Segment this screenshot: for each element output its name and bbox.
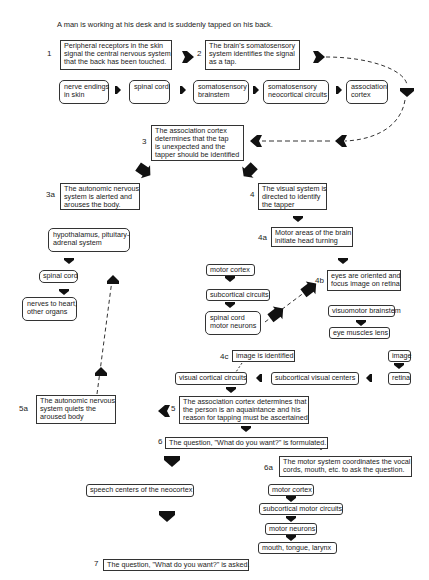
node-line: other organs [27, 308, 72, 316]
node-line: visuomotor brainstem [332, 307, 391, 315]
step-4c-box: image is identified [232, 350, 295, 362]
step-3a-number: 3a [46, 191, 55, 200]
step-6a-line: cords, mouth, etc. to ask the question. [283, 466, 408, 474]
node-line: motor neurons [210, 322, 256, 330]
node-line: adrenal system [53, 239, 125, 247]
node-line: speech centers of the neocortex [90, 486, 190, 494]
step-5a-box: The autonomic nervous system quiets the … [36, 395, 116, 424]
step-4c-number: 4c [220, 353, 228, 362]
node-line: motor neurons [269, 525, 313, 533]
step-7-line: The question, "What do you want?" is ask… [107, 561, 245, 569]
vocal-node-mouth-tongue-larynx: mouth, tongue, larynx [258, 542, 337, 554]
speech-centers-node: speech centers of the neocortex [86, 484, 194, 497]
pathway-node-spinal-motor-neurons: spinal cord motor neurons [205, 311, 261, 335]
pathway-node-spinal-cord: spinal cord [129, 80, 170, 104]
step-4b-box: eyes are oriented and focus image on ret… [327, 270, 401, 291]
pathway-node-subcortical-visual: subcortical visual centers [271, 372, 359, 385]
pathway-node-motor-cortex: motor cortex [206, 264, 255, 276]
step-3a-box: The autonomic nervous system is alerted … [60, 183, 140, 210]
node-line: retina [392, 374, 407, 382]
pathway-node-retina: retina [388, 372, 411, 385]
vocal-node-subcortical-motor: subcortical motor circuits [259, 503, 343, 515]
pathway-node-image: image [388, 350, 411, 362]
pathway-node-association-cortex: association cortex [346, 80, 388, 104]
node-line: motor cortex [210, 266, 251, 274]
step-6-box: The question, "What do you want?" is for… [165, 437, 328, 449]
node-line: spinal cord [134, 83, 165, 91]
pathway-node-nerves-heart: nerves to heart, other organs [22, 297, 77, 321]
node-line: image [392, 352, 407, 360]
pathway-node-visual-cortical: visual cortical circuits [175, 372, 247, 385]
step-4-line: the tapper [262, 201, 323, 209]
step-3a-line: arouses the body. [64, 201, 136, 209]
node-line: subcortical visual centers [275, 374, 355, 382]
step-5a-number: 5a [19, 405, 28, 414]
node-line: eye muscles lens [333, 329, 386, 337]
step-4-box: The visual system is directed to identif… [258, 183, 327, 210]
step-1-box: Peripheral receptors in the skin signal … [60, 40, 172, 70]
step-5-number: 5 [171, 405, 175, 414]
step-4a-box: Motor areas of the brain initiate head t… [271, 227, 353, 247]
step-3-number: 3 [142, 138, 146, 147]
step-2-line: as a tap. [209, 58, 296, 66]
step-7-number: 7 [94, 560, 98, 569]
step-4-number: 4 [250, 191, 254, 200]
vocal-node-motor-cortex: motor cortex [268, 484, 314, 496]
pathway-node-somatosensory-neocortical: somatosensory neocortical circuits [263, 80, 329, 104]
pathway-node-visuomotor-brainstem: visuomotor brainstem [328, 305, 395, 317]
step-3-line: tapper should be identified [155, 151, 240, 159]
step-4a-line: initiate head turning [275, 237, 349, 245]
node-line: visual cortical circuits [179, 374, 243, 382]
node-line: subcortical circuits [210, 291, 266, 299]
node-line: motor cortex [272, 486, 310, 494]
pathway-node-nerve-endings: nerve endings in skin [59, 80, 109, 104]
step-6a-number: 6a [264, 464, 273, 473]
step-3-box: The association cortex determines that t… [151, 125, 244, 161]
node-line: mouth, tongue, larynx [262, 544, 333, 552]
step-1-line: that the back has been touched. [64, 58, 168, 66]
pathway-node-hypothalamus: hypothalamus, pituitary- adrenal system [48, 228, 130, 252]
step-7-box: The question, "What do you want?" is ask… [103, 559, 249, 571]
step-6-number: 6 [158, 438, 162, 447]
vocal-node-motor-neurons: motor neurons [265, 523, 317, 535]
step-4b-line: focus image on retina [331, 280, 397, 288]
step-2-box: The brain's somatosensory system identif… [205, 40, 300, 70]
pathway-node-somatosensory-brainstem: somatosensory brainstem [193, 80, 249, 104]
step-1-number: 1 [47, 50, 51, 59]
node-line: subcortical motor circuits [263, 505, 339, 513]
pathway-node-eye-muscles-lens: eye muscles lens [329, 327, 390, 339]
step-2-number: 2 [197, 50, 201, 59]
node-line: brainstem [198, 91, 244, 99]
step-5-line: reason for tapping must be ascertained [183, 414, 305, 422]
step-5a-line: aroused body [40, 413, 112, 421]
step-4c-line: image is identified [236, 352, 291, 360]
step-4a-number: 4a [258, 234, 267, 243]
node-line: in skin [64, 91, 104, 99]
pathway-node-spinal-cord-autonomic: spinal cord [39, 270, 78, 283]
step-5-box: The association cortex determines that t… [179, 396, 309, 424]
step-6a-box: The motor system coordinates the vocal c… [279, 456, 412, 477]
node-line: spinal cord [43, 272, 74, 280]
node-line: cortex [351, 91, 383, 99]
pathway-node-subcortical-circuits: subcortical circuits [206, 289, 270, 301]
step-4b-number: 4b [315, 277, 324, 286]
arrow-1-to-2 [182, 51, 194, 63]
scenario-title: A man is working at his desk and is sudd… [57, 21, 273, 29]
step-6-line: The question, "What do you want?" is for… [169, 439, 324, 447]
node-line: neocortical circuits [268, 91, 324, 99]
